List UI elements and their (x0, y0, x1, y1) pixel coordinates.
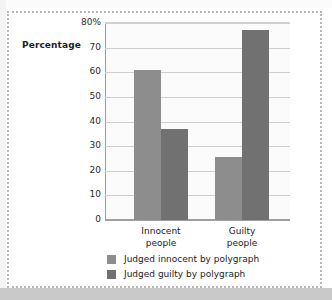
chart-legend: Judged innocent by polygraphJudged guilt… (107, 252, 259, 282)
y-tick-0: 0 (58, 214, 101, 225)
y-tick-label: 10 (61, 189, 101, 199)
y-tick-20: 20 (58, 165, 101, 176)
y-tick-10: 10 (58, 189, 101, 200)
x-category-label-line: Innocent (116, 225, 206, 237)
x-category-label-line: people (197, 237, 287, 249)
y-tick-label: 70 (61, 42, 101, 52)
legend-item-judged-guilty[interactable]: Judged guilty by polygraph (107, 267, 259, 281)
x-category-label-line: people (116, 237, 206, 249)
legend-swatch-icon (107, 270, 116, 279)
y-tick-label: 50 (61, 91, 101, 101)
bars-layer (105, 23, 290, 220)
y-tick-70: 70 (58, 42, 101, 53)
y-tick-50: 50 (58, 91, 101, 102)
x-category-label-guilty-people: Guiltypeople (197, 225, 287, 249)
y-tick-label: 0 (61, 214, 101, 224)
figure-root: Percentage 80%706050403020100 Innocentpe… (0, 0, 332, 300)
y-tick-30: 30 (58, 140, 101, 151)
y-tick-60: 60 (58, 66, 101, 77)
bar-guilty-judged-innocent (215, 157, 242, 220)
y-tick-40: 40 (58, 116, 101, 127)
y-tick-label: 20 (61, 165, 101, 175)
bar-guilty-judged-guilty (242, 30, 269, 220)
y-tick-label: 30 (61, 140, 101, 150)
legend-swatch-icon (107, 255, 116, 264)
bar-innocent-judged-innocent (134, 70, 161, 220)
legend-label: Judged innocent by polygraph (124, 254, 259, 264)
x-category-label-innocent-people: Innocentpeople (116, 225, 206, 249)
y-tick-label: 40 (61, 116, 101, 126)
legend-item-judged-innocent[interactable]: Judged innocent by polygraph (107, 252, 259, 266)
bar-chart: Percentage 80%706050403020100 Innocentpe… (0, 0, 332, 300)
y-tick-80: 80% (58, 17, 101, 28)
y-tick-label: 60 (61, 66, 101, 76)
legend-label: Judged guilty by polygraph (124, 269, 245, 279)
bar-innocent-judged-guilty (161, 129, 188, 220)
y-tick-label: 80% (61, 17, 101, 27)
x-category-label-line: Guilty (197, 225, 287, 237)
